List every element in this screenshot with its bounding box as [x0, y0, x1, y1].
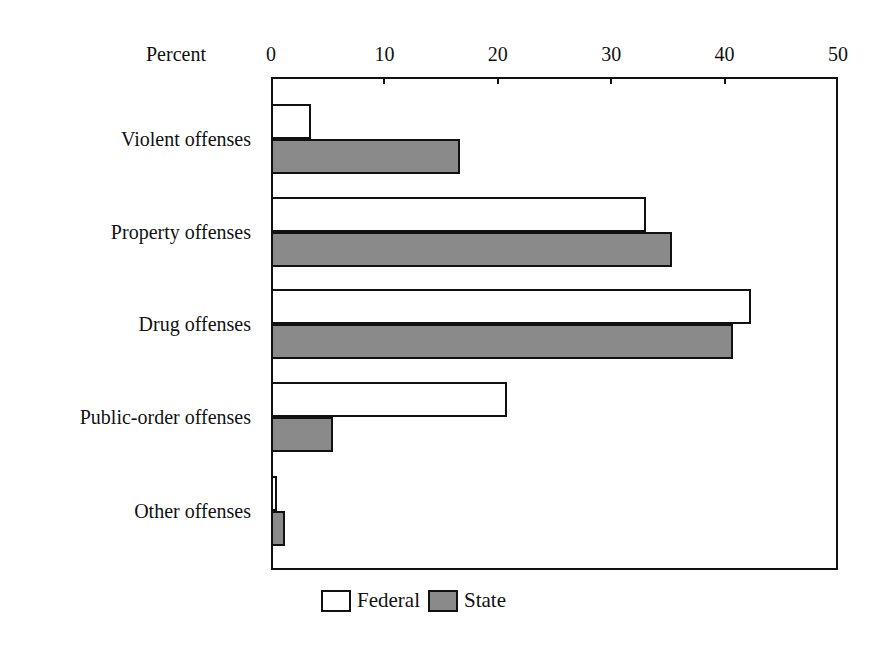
bar-federal	[271, 476, 277, 511]
x-tick-label: 10	[374, 43, 394, 66]
bar-state	[271, 511, 285, 546]
category-label: Property offenses	[111, 221, 251, 244]
bar-state	[271, 417, 333, 452]
bar-federal	[271, 289, 751, 324]
federal-swatch-icon	[321, 590, 351, 612]
legend-item-federal: Federal	[321, 588, 420, 613]
x-tick-label: 50	[828, 43, 848, 66]
bar-state	[271, 232, 672, 267]
legend-label-state: State	[464, 588, 506, 613]
x-tick-mark	[497, 77, 499, 84]
x-tick-label: 40	[715, 43, 735, 66]
x-tick-mark	[383, 77, 385, 84]
legend-item-state: State	[428, 588, 506, 613]
state-swatch-icon	[428, 590, 458, 612]
x-tick-mark	[610, 77, 612, 84]
x-axis-title: Percent	[146, 43, 206, 66]
x-tick-label: 0	[266, 43, 276, 66]
category-label: Violent offenses	[121, 128, 251, 151]
category-label: Public-order offenses	[80, 406, 251, 429]
legend: Federal State	[321, 588, 514, 613]
bar-federal	[271, 382, 507, 417]
category-label: Other offenses	[134, 500, 251, 523]
bar-chart: Percent 01020304050 Violent offensesProp…	[0, 0, 885, 648]
x-tick-mark	[724, 77, 726, 84]
x-tick-label: 20	[488, 43, 508, 66]
category-label: Drug offenses	[139, 313, 251, 336]
bar-state	[271, 324, 733, 359]
legend-label-federal: Federal	[357, 588, 420, 613]
x-tick-label: 30	[601, 43, 621, 66]
bar-state	[271, 139, 460, 174]
bar-federal	[271, 197, 646, 232]
bar-federal	[271, 104, 311, 139]
